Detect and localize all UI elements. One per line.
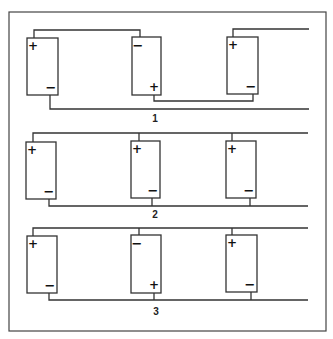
diagram-label: 1 xyxy=(152,113,158,124)
wiring-diagram-2: +−+−+−2 xyxy=(26,133,308,220)
negative-terminal-icon: − xyxy=(45,278,56,293)
battery: +− xyxy=(26,142,56,199)
positive-terminal-icon: + xyxy=(228,38,238,52)
positive-terminal-icon: + xyxy=(132,142,142,156)
positive-terminal-icon: + xyxy=(227,236,237,250)
wire xyxy=(49,199,308,206)
wire xyxy=(33,228,308,236)
battery: +− xyxy=(226,141,256,198)
battery: +− xyxy=(226,235,257,292)
negative-terminal-icon: − xyxy=(148,183,159,198)
negative-terminal-icon: − xyxy=(44,184,55,199)
wiring-diagram-3: +−−++−3 xyxy=(27,228,308,317)
positive-terminal-icon: + xyxy=(149,278,159,292)
wiring-diagram-1: +−−++−1 xyxy=(27,29,309,124)
positive-terminal-icon: + xyxy=(28,39,38,53)
diagram-label: 2 xyxy=(152,209,158,220)
diagram-group: +−−++−1+−+−+−2+−−++−3 xyxy=(26,29,309,317)
positive-terminal-icon: + xyxy=(27,143,37,157)
battery: +− xyxy=(131,141,160,198)
battery: +− xyxy=(227,37,258,94)
positive-terminal-icon: + xyxy=(28,237,38,251)
battery: +− xyxy=(27,38,58,95)
wire xyxy=(33,133,308,142)
positive-terminal-icon: + xyxy=(149,80,159,94)
wire xyxy=(154,94,253,101)
negative-terminal-icon: − xyxy=(133,38,144,53)
battery: −+ xyxy=(132,37,161,95)
wire xyxy=(233,29,309,37)
diagram-label: 3 xyxy=(153,306,159,317)
negative-terminal-icon: − xyxy=(46,80,57,95)
battery: +− xyxy=(27,236,57,293)
positive-terminal-icon: + xyxy=(227,142,237,156)
negative-terminal-icon: − xyxy=(245,277,256,292)
negative-terminal-icon: − xyxy=(132,236,143,251)
negative-terminal-icon: − xyxy=(246,79,257,94)
battery: −+ xyxy=(131,235,161,293)
negative-terminal-icon: − xyxy=(244,183,255,198)
wire xyxy=(49,293,308,300)
wire xyxy=(50,95,309,109)
battery-wiring-diagram: +−−++−1+−+−+−2+−−++−3 xyxy=(0,0,333,339)
wire xyxy=(34,30,140,38)
